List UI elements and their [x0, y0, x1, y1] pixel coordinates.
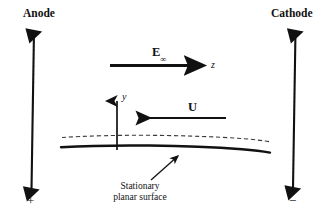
electric-field-label: E∞: [152, 46, 166, 61]
electric-field-subscript: ∞: [160, 54, 166, 64]
cathode-label: Cathode: [271, 8, 313, 20]
caption-leader-arrow: [151, 156, 178, 180]
z-axis-label: z: [211, 60, 215, 70]
cathode-electrode-arrow: [293, 31, 296, 188]
anode-sign-label: +: [27, 194, 34, 207]
cathode-sign-label: −: [289, 194, 296, 207]
surface-caption: Stationary planar surface: [85, 181, 195, 203]
velocity-label: U: [188, 101, 197, 114]
stationary-surface-curve: [61, 145, 270, 152]
dashed-boundary-curve: [62, 135, 270, 142]
anode-electrode-arrow: [32, 31, 35, 189]
anode-label: Anode: [23, 8, 55, 20]
surface-caption-line-2: planar surface: [85, 192, 195, 203]
y-axis-label: y: [122, 92, 126, 102]
surface-caption-line-1: Stationary: [85, 181, 195, 192]
electrophoresis-diagram: Anode + Cathode − E∞ z U y Stationary pl…: [0, 0, 330, 220]
